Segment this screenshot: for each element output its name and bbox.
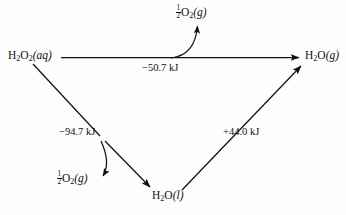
energy-label-right: +44.0 kJ (223, 127, 259, 138)
species-h2o2-aq-o: O (20, 49, 28, 61)
species-h2o-l-state: (l) (173, 189, 184, 201)
fraction-denominator-top: 2 (176, 13, 181, 20)
arrow-branch-to-h2ol (105, 141, 150, 187)
arrow-release-o2-bottom (101, 141, 107, 176)
species-o2-g-top-state: (g) (193, 6, 206, 18)
fraction-denominator-bottom: 2 (57, 179, 62, 186)
species-o2-g-bottom-o: O (62, 172, 70, 184)
fraction-one-half-top: 12 (176, 5, 181, 20)
species-o2-g-bottom: 12O2(g) (57, 171, 88, 186)
species-h2o-g: H2O(g) (305, 50, 339, 63)
species-o2-g-top-o: O (181, 6, 189, 18)
energy-label-left: −94.7 kJ (59, 127, 95, 138)
energy-label-top: −50.7 kJ (142, 63, 178, 74)
species-h2o-g-state: (g) (326, 49, 339, 61)
fraction-one-half-bottom: 12 (57, 171, 62, 186)
species-h2o2-aq: H2O2(aq) (8, 50, 52, 63)
species-h2o2-aq-state: (aq) (33, 49, 52, 61)
species-o2-g-bottom-state: (g) (74, 172, 87, 184)
species-h2o-l-o: O (164, 189, 172, 201)
arrow-release-o2-top (171, 26, 198, 58)
diagram-arrows-layer (0, 0, 346, 215)
species-o2-g-top: 12O2(g) (176, 5, 207, 20)
species-h2o-l: H2O(l) (152, 190, 183, 203)
species-h2o-g-o: O (317, 49, 325, 61)
energy-cycle-diagram: H2O2(aq) 12O2(g) H2O(g) 12O2(g) H2O(l) −… (0, 0, 346, 215)
